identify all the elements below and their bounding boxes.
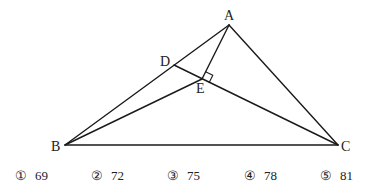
choice-2[interactable]: ②72 — [91, 168, 124, 184]
choice-marker: ⑤ — [320, 168, 332, 183]
choice-value: 72 — [111, 168, 124, 183]
answer-choices: ①69 ②72 ③75 ④78 ⑤81 — [0, 168, 368, 188]
label-b: B — [51, 139, 60, 154]
label-d: D — [160, 54, 170, 69]
choice-value: 81 — [340, 168, 353, 183]
label-e: E — [196, 81, 205, 96]
choice-1[interactable]: ①69 — [15, 168, 48, 184]
choice-value: 78 — [264, 168, 277, 183]
label-c: C — [341, 139, 350, 154]
label-a: A — [224, 8, 235, 23]
choice-value: 69 — [35, 168, 48, 183]
segment-ac — [229, 25, 338, 145]
choice-3[interactable]: ③75 — [167, 168, 200, 184]
choice-value: 75 — [187, 168, 200, 183]
segment-dc — [174, 65, 338, 145]
choice-5[interactable]: ⑤81 — [320, 168, 353, 184]
choice-4[interactable]: ④78 — [244, 168, 277, 184]
geometry-diagram: A B C D E — [0, 0, 368, 194]
choice-marker: ④ — [244, 168, 256, 183]
segment-ae — [202, 25, 229, 79]
choice-marker: ② — [91, 168, 103, 183]
segment-be — [65, 79, 202, 145]
choice-marker: ③ — [167, 168, 179, 183]
choice-marker: ① — [15, 168, 27, 183]
